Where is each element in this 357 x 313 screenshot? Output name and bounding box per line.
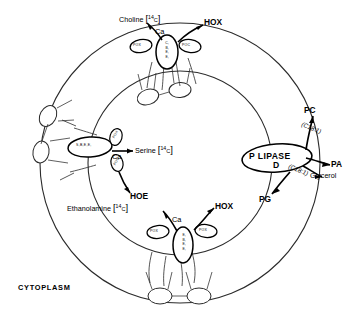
- lipase-subtype-label: D: [273, 161, 280, 170]
- lipase-name-label: P LIPASE: [249, 152, 291, 161]
- lipid-oval: [187, 288, 211, 304]
- hox-top-arrowhead: [196, 25, 203, 30]
- ca-label-left: Ca: [112, 153, 121, 160]
- ethanolamine-enzyme-stack-label: E, B, E, E,: [177, 233, 191, 251]
- hox-bottom-arrowhead: [207, 208, 214, 214]
- serine-label: Serine [14C]: [135, 145, 173, 155]
- pg-arrow: [272, 172, 290, 194]
- pa-label: PA: [331, 160, 342, 168]
- ethanolamine-label: Ethanolamine [14C]: [67, 203, 128, 213]
- pox-label-top-left: POX: [133, 44, 141, 48]
- pc-label: PC: [304, 106, 316, 114]
- serine-arrowhead: [127, 149, 133, 154]
- lipid-oval: [36, 103, 60, 130]
- stack-letter: E,: [160, 55, 174, 60]
- glycerol-label: Glycerol: [310, 172, 336, 179]
- serine-enzyme-label: S,B,E,E,: [76, 144, 92, 148]
- choline-enzyme-stack-label: C, B, E, E,: [160, 41, 174, 59]
- inner-ring-lipid-group: [135, 82, 191, 108]
- choline-label: Choline [14C]: [119, 14, 160, 24]
- lipid-oval: [148, 288, 172, 304]
- stack-letter: E,: [177, 247, 191, 252]
- hox-label-bottom: HOX: [215, 202, 233, 210]
- poc-label-top-right: POC: [182, 44, 190, 48]
- hox-label-top: HOX: [204, 18, 222, 26]
- hoe-label: HOE: [130, 192, 148, 200]
- cytoplasm-label: CYTOPLASM: [18, 284, 71, 291]
- outer-ring-lipid-tails: [41, 100, 212, 296]
- serine-enzyme-complex: [60, 120, 133, 193]
- ca-label-top: Ca: [155, 28, 164, 35]
- lipid-oval: [135, 86, 161, 107]
- membrane-pathway-diagram: [0, 0, 357, 313]
- pa-arrowhead: [322, 162, 330, 167]
- ca-label-bottom: Ca: [172, 216, 181, 223]
- pg-label: PG: [259, 195, 271, 203]
- pox-label-bottom-right: POX: [199, 229, 207, 233]
- pox-label-bottom-left: POX: [150, 230, 158, 234]
